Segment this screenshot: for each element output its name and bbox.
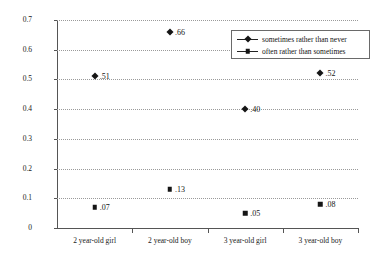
- data-point-label: .05: [250, 209, 260, 218]
- x-tick-separator: [208, 228, 209, 233]
- gridline: [57, 139, 358, 140]
- y-tick-label: 0.1: [23, 194, 32, 202]
- data-point[interactable]: [243, 211, 248, 216]
- y-tick-mark: [54, 169, 57, 170]
- legend-label: often rather than sometimes: [262, 47, 346, 56]
- data-point[interactable]: [318, 202, 323, 207]
- diamond-marker-icon: [237, 34, 258, 44]
- data-point[interactable]: [166, 28, 173, 35]
- data-point[interactable]: [168, 187, 173, 192]
- legend-item-series-2[interactable]: often rather than sometimes: [232, 45, 369, 57]
- gridline: [57, 198, 358, 199]
- data-point-label: .52: [325, 69, 335, 78]
- legend-label: sometimes rather than never: [262, 35, 347, 44]
- square-marker-icon: [237, 46, 258, 56]
- x-tick-separator: [358, 228, 359, 233]
- x-category-label: 3 year-old girl: [224, 236, 267, 245]
- y-tick-mark: [54, 20, 57, 21]
- y-tick-mark: [54, 109, 57, 110]
- data-point[interactable]: [92, 205, 97, 210]
- y-tick-label: 0.4: [23, 105, 32, 113]
- y-tick-label: 0: [28, 224, 32, 232]
- x-tick-separator: [283, 228, 284, 233]
- gridline: [57, 109, 358, 110]
- y-tick-mark: [54, 79, 57, 80]
- data-point-label: .51: [100, 72, 110, 81]
- y-tick-mark: [54, 228, 57, 229]
- x-tick-separator: [132, 228, 133, 233]
- legend[interactable]: sometimes rather than never often rather…: [231, 30, 370, 59]
- y-tick-mark: [54, 50, 57, 51]
- y-tick-label: 0.6: [23, 46, 32, 54]
- data-point-label: .40: [250, 105, 260, 114]
- x-category-label: 2 year-old girl: [73, 236, 116, 245]
- y-tick-mark: [54, 198, 57, 199]
- data-point[interactable]: [242, 106, 249, 113]
- legend-item-series-1[interactable]: sometimes rather than never: [232, 33, 369, 45]
- gridline: [57, 20, 358, 21]
- data-point-label: .07: [100, 203, 110, 212]
- y-tick-label: 0.2: [23, 165, 32, 173]
- y-tick-label: 0.5: [23, 75, 32, 83]
- y-tick-mark: [54, 139, 57, 140]
- y-tick-label: 0.3: [23, 135, 32, 143]
- data-point-label: .13: [175, 185, 185, 194]
- chart-container: Odds 00.10.20.30.40.50.60.7 .51.66.40.52…: [0, 0, 380, 258]
- data-point[interactable]: [317, 70, 324, 77]
- data-point-label: .08: [325, 200, 335, 209]
- data-point-label: .66: [175, 27, 185, 36]
- x-category-label: 3 year-old boy: [299, 236, 343, 245]
- y-tick-label: 0.7: [23, 16, 32, 24]
- x-category-label: 2 year-old boy: [148, 236, 192, 245]
- gridline: [57, 169, 358, 170]
